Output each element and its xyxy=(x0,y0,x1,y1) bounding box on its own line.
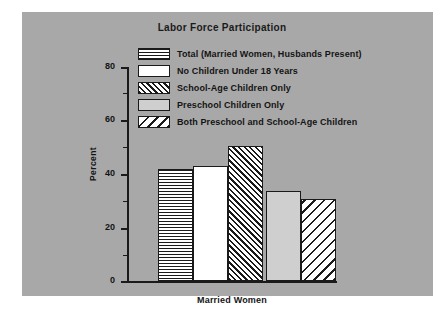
legend-label: Total (Married Women, Husbands Present) xyxy=(177,49,362,59)
bar-no-children xyxy=(193,166,228,281)
y-tick-20 xyxy=(121,228,127,230)
y-tick-60 xyxy=(121,120,127,122)
y-tick-70 xyxy=(123,93,127,94)
bar-school-age xyxy=(228,146,263,281)
chart-panel: Labor Force Participation Total (Married… xyxy=(22,12,433,296)
y-tick-label: 40 xyxy=(81,168,115,178)
y-tick-30 xyxy=(123,201,127,202)
y-tick-label: 60 xyxy=(81,114,115,124)
bar-both xyxy=(301,199,336,281)
y-tick-label: 0 xyxy=(81,275,115,285)
y-tick-label: 80 xyxy=(81,61,115,71)
legend-swatch-total-icon xyxy=(138,48,170,60)
y-axis-tick-labels: 80 60 40 20 0 xyxy=(81,67,115,283)
bar-total xyxy=(158,169,193,281)
bar-preschool xyxy=(266,191,301,281)
y-tick-label: 20 xyxy=(81,222,115,232)
y-tick-40 xyxy=(121,174,127,176)
y-tick-50 xyxy=(123,147,127,148)
plot-area: Percent 80 60 40 20 0 Married Women xyxy=(127,67,337,283)
y-tick-0 xyxy=(121,281,127,283)
x-axis-title: Married Women xyxy=(127,295,337,305)
y-axis-line xyxy=(127,67,129,283)
y-tick-80 xyxy=(121,67,127,69)
x-axis-line xyxy=(127,281,337,283)
legend-item: Total (Married Women, Husbands Present) xyxy=(138,45,362,62)
y-tick-10 xyxy=(123,255,127,256)
chart-title: Labor Force Participation xyxy=(22,22,422,33)
